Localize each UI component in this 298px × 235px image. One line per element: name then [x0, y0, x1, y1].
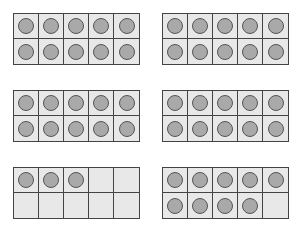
frame-cell [114, 193, 139, 218]
ten-frame-3 [13, 90, 140, 142]
frame-cell [188, 116, 213, 141]
frame-cell [263, 193, 288, 218]
frame-cell [213, 193, 238, 218]
frame-cell [238, 193, 263, 218]
counter-circle-icon [43, 172, 59, 188]
counter-circle-icon [93, 18, 109, 34]
frame-cell [163, 168, 188, 193]
counter-circle-icon [18, 18, 34, 34]
ten-frame-1 [13, 13, 140, 65]
counter-circle-icon [119, 44, 135, 60]
counter-circle-icon [192, 172, 208, 188]
ten-frame-5 [13, 167, 140, 219]
frame-cell [163, 14, 188, 39]
counter-circle-icon [43, 121, 59, 137]
counter-circle-icon [167, 172, 183, 188]
frame-cell [39, 39, 64, 64]
frame-cell [163, 116, 188, 141]
frame-cell [89, 168, 114, 193]
frame-cell [163, 39, 188, 64]
frame-cell [39, 14, 64, 39]
frame-cell [14, 14, 39, 39]
frame-cell [14, 116, 39, 141]
counter-circle-icon [217, 121, 233, 137]
counter-circle-icon [217, 198, 233, 214]
counter-circle-icon [268, 172, 284, 188]
frame-cell [213, 116, 238, 141]
ten-frame-4 [162, 90, 289, 142]
counter-circle-icon [43, 95, 59, 111]
counter-circle-icon [119, 18, 135, 34]
counter-circle-icon [242, 18, 258, 34]
counter-circle-icon [43, 18, 59, 34]
counter-circle-icon [217, 18, 233, 34]
counter-circle-icon [167, 121, 183, 137]
counter-circle-icon [167, 95, 183, 111]
counter-circle-icon [268, 121, 284, 137]
frame-cell [39, 193, 64, 218]
counter-circle-icon [119, 95, 135, 111]
counter-circle-icon [93, 121, 109, 137]
counter-circle-icon [43, 44, 59, 60]
frame-cell [89, 14, 114, 39]
counter-circle-icon [192, 198, 208, 214]
frame-cell [39, 91, 64, 116]
frame-cell [114, 116, 139, 141]
frame-cell [263, 91, 288, 116]
counter-circle-icon [268, 95, 284, 111]
frame-cell [64, 193, 89, 218]
frame-cell [213, 39, 238, 64]
frame-cell [238, 14, 263, 39]
frame-cell [163, 193, 188, 218]
frame-cell [39, 168, 64, 193]
frame-cell [89, 193, 114, 218]
counter-circle-icon [18, 121, 34, 137]
frame-cell [238, 91, 263, 116]
frame-cell [39, 116, 64, 141]
counter-circle-icon [93, 95, 109, 111]
counter-circle-icon [192, 18, 208, 34]
frame-cell [213, 14, 238, 39]
frame-cell [238, 39, 263, 64]
frame-cell [64, 168, 89, 193]
counter-circle-icon [217, 172, 233, 188]
frame-cell [213, 91, 238, 116]
counter-circle-icon [242, 172, 258, 188]
counter-circle-icon [93, 44, 109, 60]
frame-cell [188, 193, 213, 218]
counter-circle-icon [68, 121, 84, 137]
counter-circle-icon [18, 172, 34, 188]
counter-circle-icon [68, 95, 84, 111]
counter-circle-icon [192, 95, 208, 111]
frame-cell [188, 39, 213, 64]
frame-cell [238, 116, 263, 141]
counter-circle-icon [18, 44, 34, 60]
counter-circle-icon [192, 44, 208, 60]
frame-cell [89, 91, 114, 116]
frame-cell [114, 39, 139, 64]
frame-cell [188, 168, 213, 193]
counter-circle-icon [167, 44, 183, 60]
counter-circle-icon [217, 44, 233, 60]
frame-cell [213, 168, 238, 193]
frame-cell [14, 168, 39, 193]
frame-cell [188, 14, 213, 39]
counter-circle-icon [119, 121, 135, 137]
ten-frame-6 [162, 167, 289, 219]
counter-circle-icon [167, 198, 183, 214]
counter-circle-icon [242, 95, 258, 111]
counter-circle-icon [68, 172, 84, 188]
counter-circle-icon [68, 18, 84, 34]
frame-cell [89, 116, 114, 141]
frame-cell [14, 193, 39, 218]
ten-frame-2 [162, 13, 289, 65]
frame-cell [64, 39, 89, 64]
frame-cell [64, 116, 89, 141]
frame-cell [263, 14, 288, 39]
frame-cell [14, 91, 39, 116]
frame-cell [188, 91, 213, 116]
frame-cell [64, 14, 89, 39]
frame-cell [64, 91, 89, 116]
counter-circle-icon [268, 44, 284, 60]
counter-circle-icon [217, 95, 233, 111]
